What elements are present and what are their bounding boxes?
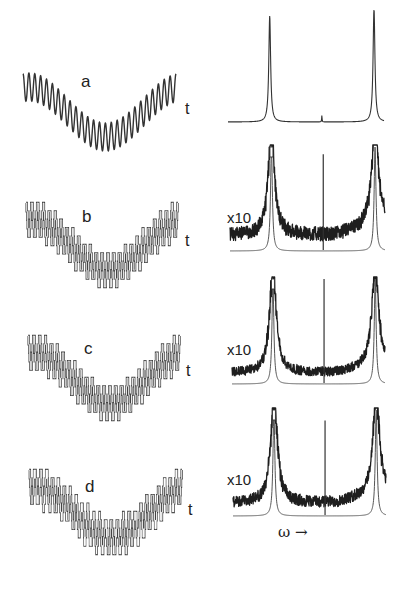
spectrum-scale-label-d: x10 xyxy=(227,472,251,487)
figure-canvas xyxy=(0,0,407,590)
spectrum-scale-label-c: x10 xyxy=(227,342,251,357)
panel-label-d: d xyxy=(85,478,94,495)
time-signal-c xyxy=(28,336,180,420)
spectra xyxy=(228,10,386,516)
spectrum-a xyxy=(228,10,384,122)
time-signals xyxy=(23,73,182,554)
panel-label-b: b xyxy=(82,208,91,225)
spectrum-d xyxy=(233,408,386,516)
spectrum-scale-label-b: x10 xyxy=(227,210,251,225)
time-axis-label-b: t xyxy=(185,233,189,249)
time-signal-d xyxy=(29,470,182,554)
time-axis-label-c: t xyxy=(186,363,190,379)
spectrum-b xyxy=(230,145,385,251)
panel-label-a: a xyxy=(81,73,90,90)
time-axis-label-a: t xyxy=(185,101,189,117)
time-signal-b xyxy=(26,203,178,287)
spectrum-c xyxy=(232,277,385,384)
frequency-axis-label: ω → xyxy=(278,525,308,540)
panel-label-c: c xyxy=(84,340,93,357)
time-axis-label-d: t xyxy=(188,502,192,518)
time-signal-a xyxy=(23,73,176,151)
